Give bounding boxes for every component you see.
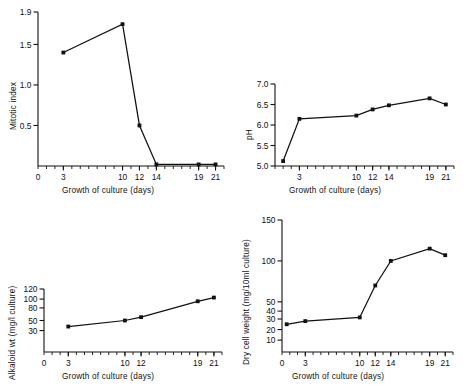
y-tick-label: 6.0	[257, 120, 269, 130]
x-tick-label: 3	[61, 172, 66, 182]
data-point-marker	[371, 108, 375, 112]
y-axis-title-ph: pH	[245, 129, 254, 140]
x-tick-label: 19	[425, 172, 435, 182]
x-axis-title-alkaloid: Growth of culture (days)	[62, 372, 154, 381]
x-tick-label: 21	[211, 172, 221, 182]
x-origin-label: 0	[42, 358, 47, 368]
y-axis-title-dry: Dry cell weight (mg/10ml culture)	[242, 239, 251, 365]
data-point-marker	[298, 117, 302, 121]
data-point-marker	[373, 284, 377, 288]
data-point-marker	[121, 22, 125, 26]
x-tick-label: 12	[136, 358, 146, 368]
x-axis-title-mitotic: Growth of culture (days)	[62, 186, 154, 195]
y-axis-title-alkaloid: Alkaloid wt (mg/l culture)	[8, 286, 17, 380]
data-point-marker	[443, 253, 447, 257]
x-tick-label: 3	[66, 358, 71, 368]
data-point-marker	[196, 299, 200, 303]
data-point-marker	[212, 296, 216, 300]
data-point-marker	[214, 162, 218, 166]
panel-dry-cell-weight: 3101214192110203040501001500 Growth of c…	[232, 200, 463, 386]
y-tick-label: 100	[24, 294, 38, 304]
panel-alkaloid-weight: 3101219213050801001200 Growth of culture…	[0, 200, 232, 386]
plot-mitotic-index: 310121419210.51.01.51.90	[0, 0, 232, 200]
x-tick-label: 12	[371, 358, 381, 368]
y-tick-label: 6.5	[257, 100, 269, 110]
x-tick-label: 14	[386, 358, 396, 368]
data-point-marker	[358, 316, 362, 320]
plot-ph: 310121419215.05.56.06.57.0	[232, 0, 463, 200]
panel-ph: 310121419215.05.56.06.57.0 Growth of cul…	[232, 0, 463, 200]
data-point-marker	[428, 247, 432, 251]
y-tick-label: 10	[266, 335, 276, 345]
y-tick-label: 120	[24, 284, 38, 294]
y-tick-label: 80	[28, 303, 38, 313]
y-tick-label: 1.9	[20, 7, 32, 17]
x-tick-label: 21	[441, 358, 451, 368]
data-point-marker	[123, 319, 127, 323]
data-line	[283, 98, 446, 161]
data-point-marker	[354, 114, 358, 118]
figure-four-panel-growth-curves: 310121419210.51.01.51.90 Growth of cultu…	[0, 0, 463, 386]
x-origin-label: 0	[36, 172, 41, 182]
y-tick-label: 0.5	[20, 121, 32, 131]
panel-mitotic-index: 310121419210.51.01.51.90 Growth of cultu…	[0, 0, 232, 200]
x-origin-label: 0	[280, 358, 285, 368]
x-axis-title-dry: Growth of culture (days)	[292, 372, 384, 381]
x-tick-label: 10	[355, 358, 365, 368]
y-tick-label: 40	[266, 306, 276, 316]
y-tick-label: 7.0	[257, 79, 269, 89]
data-point-marker	[66, 325, 70, 329]
data-point-marker	[139, 315, 143, 319]
data-point-marker	[285, 322, 289, 326]
data-line	[68, 298, 214, 327]
y-tick-label: 50	[28, 316, 38, 326]
x-tick-label: 12	[135, 172, 145, 182]
x-tick-label: 21	[209, 358, 219, 368]
data-point-marker	[387, 103, 391, 107]
y-tick-label: 150	[262, 215, 276, 225]
y-tick-label: 5.0	[257, 161, 269, 171]
plot-dry-cell-weight: 3101214192110203040501001500	[232, 200, 463, 386]
x-tick-label: 10	[352, 172, 362, 182]
data-point-marker	[61, 51, 65, 55]
x-tick-label: 19	[193, 358, 203, 368]
plot-alkaloid-weight: 3101219213050801001200	[0, 200, 232, 386]
data-point-marker	[138, 124, 142, 128]
data-point-marker	[303, 319, 307, 323]
y-axis-title-mitotic: Mitotic index	[9, 82, 18, 130]
data-line	[287, 249, 446, 325]
x-tick-label: 3	[303, 358, 308, 368]
data-point-marker	[281, 159, 285, 163]
x-tick-label: 14	[152, 172, 162, 182]
x-tick-label: 19	[425, 358, 435, 368]
x-tick-label: 14	[384, 172, 394, 182]
data-line	[63, 24, 215, 164]
data-point-marker	[197, 162, 201, 166]
y-tick-label: 50	[266, 297, 276, 307]
x-tick-label: 10	[120, 358, 130, 368]
x-tick-label: 19	[194, 172, 204, 182]
data-point-marker	[428, 96, 432, 100]
x-axis-title-ph: Growth of culture (days)	[289, 186, 381, 195]
y-tick-label: 1.5	[20, 40, 32, 50]
y-tick-label: 5.5	[257, 141, 269, 151]
y-tick-label: 100	[262, 256, 276, 266]
x-tick-label: 12	[368, 172, 378, 182]
data-point-marker	[444, 103, 448, 107]
x-tick-label: 10	[118, 172, 128, 182]
y-tick-label: 20	[266, 325, 276, 335]
x-tick-label: 21	[441, 172, 451, 182]
data-point-marker	[389, 259, 393, 263]
x-tick-label: 3	[297, 172, 302, 182]
data-point-marker	[154, 162, 158, 166]
y-tick-label: 1.0	[20, 80, 32, 90]
y-tick-label: 30	[28, 326, 38, 336]
